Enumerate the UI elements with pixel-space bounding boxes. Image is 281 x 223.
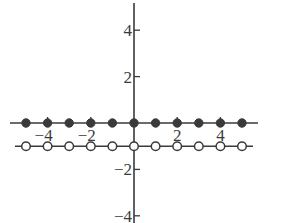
chart: 42−2−4−4−224 bbox=[0, 0, 281, 223]
open-point bbox=[22, 142, 31, 151]
y-tick-label: 4 bbox=[124, 21, 133, 40]
filled-point bbox=[43, 119, 51, 127]
filled-point bbox=[108, 119, 116, 127]
filled-point bbox=[173, 119, 181, 127]
open-point bbox=[108, 142, 117, 151]
y-tick-label: −4 bbox=[114, 207, 133, 223]
open-point bbox=[238, 142, 247, 151]
filled-point bbox=[216, 119, 224, 127]
filled-point bbox=[151, 119, 159, 127]
open-point bbox=[87, 142, 96, 151]
y-tick-label: −2 bbox=[114, 160, 132, 179]
filled-point bbox=[130, 119, 138, 127]
open-point bbox=[195, 142, 204, 151]
filled-point bbox=[22, 119, 30, 127]
open-point bbox=[43, 142, 52, 151]
filled-point bbox=[65, 119, 73, 127]
filled-point bbox=[195, 119, 203, 127]
open-point bbox=[65, 142, 74, 151]
filled-point bbox=[238, 119, 246, 127]
open-point bbox=[216, 142, 225, 151]
open-point bbox=[173, 142, 182, 151]
filled-point bbox=[87, 119, 95, 127]
y-tick-label: 2 bbox=[124, 68, 133, 87]
open-point bbox=[151, 142, 160, 151]
open-point bbox=[130, 142, 139, 151]
